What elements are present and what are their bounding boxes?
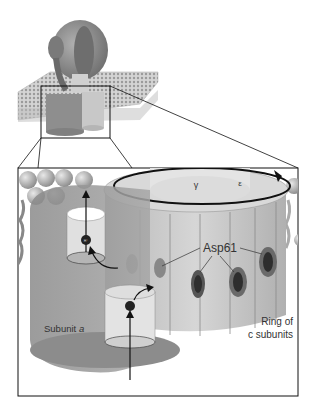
overview-illustration [18, 20, 158, 138]
asp61-label: Asp61 [203, 241, 237, 255]
subunit-a-label: Subunit a [44, 323, 84, 334]
epsilon-label: ε [238, 179, 242, 188]
atp-synthase-diagram: γ ε [0, 0, 312, 407]
svg-text:H⁺: H⁺ [84, 239, 89, 243]
detail-panel: γ ε [18, 168, 306, 396]
ring-label-line2: c subunits [248, 329, 293, 340]
gamma-label: γ [194, 180, 199, 190]
ring-label-line1: Ring of [261, 316, 293, 327]
